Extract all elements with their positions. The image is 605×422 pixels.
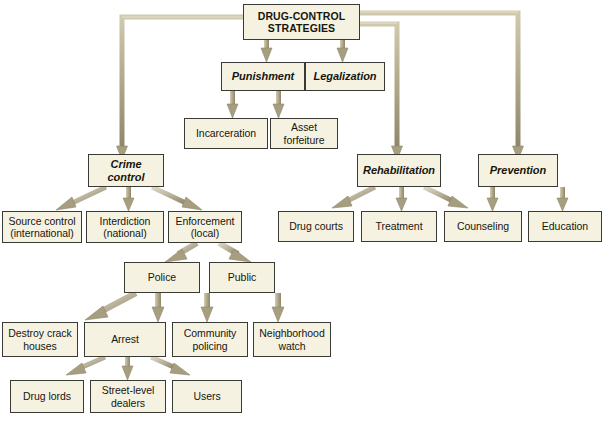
connector-police-to-arrest (152, 293, 164, 322)
node-education: Education (528, 211, 602, 242)
connector-crime-control-to-interdiction (123, 187, 134, 211)
connector-enforcement-to-public (219, 243, 251, 262)
connector-arrest-to-drug-lords (66, 357, 105, 375)
node-enforcement: Enforcement (local) (168, 211, 242, 243)
node-counseling: Counseling (444, 211, 522, 242)
connector-prevention-to-education (557, 187, 568, 211)
connector-crime-control-to-source-control (56, 187, 106, 210)
node-arrest: Arrest (84, 322, 166, 357)
connector-rehabilitation-to-drug-courts (332, 187, 375, 208)
connector-enforcement-to-police (165, 243, 197, 262)
node-drug-courts: Drug courts (278, 211, 354, 242)
connector-rehabilitation-to-treatment (396, 187, 407, 211)
node-police: Police (124, 262, 200, 293)
connector-root-to-legalization (337, 40, 348, 62)
node-drug-control-strategies: DRUG-CONTROL STRATEGIES (243, 4, 360, 40)
connector-public-to-community-policing (201, 293, 213, 322)
node-treatment: Treatment (361, 211, 437, 242)
node-community-policing: Community policing (172, 322, 248, 357)
node-crime-control: Crime control (88, 154, 164, 187)
connector-police-to-destroy-crack-houses (85, 293, 136, 320)
connector-root-to-rehabilitation (360, 23, 403, 160)
connector-public-to-neighborhood-watch (272, 293, 284, 322)
node-users: Users (172, 380, 242, 413)
node-prevention: Prevention (478, 154, 558, 187)
connector-crime-control-to-enforcement (152, 187, 202, 210)
drug-control-strategies-diagram: DRUG-CONTROL STRATEGIES Punishment Legal… (0, 0, 605, 422)
node-asset-forfeiture: Asset forfeiture (270, 118, 338, 149)
node-public: Public (209, 262, 275, 293)
node-drug-lords: Drug lords (10, 380, 84, 413)
node-source-control: Source control (international) (2, 211, 82, 243)
connector-punishment-to-incarceration (227, 91, 238, 118)
node-street-level-dealers: Street-level dealers (90, 380, 166, 413)
node-incarceration: Incarceration (184, 118, 268, 149)
node-punishment: Punishment (221, 62, 305, 91)
node-interdiction: Interdiction (national) (86, 211, 164, 243)
node-rehabilitation: Rehabilitation (357, 154, 441, 187)
node-neighborhood-watch: Neighborhood watch (253, 322, 331, 357)
connector-arrest-to-users (151, 357, 190, 375)
node-legalization: Legalization (305, 62, 385, 91)
connector-root-to-punishment (261, 40, 272, 62)
node-destroy-crack-houses: Destroy crack houses (2, 322, 78, 357)
connector-prevention-to-counseling (487, 187, 498, 211)
connector-arrest-to-street-level-dealers (122, 357, 133, 380)
connector-rehabilitation-to-counseling (424, 187, 468, 208)
connector-punishment-to-asset-forfeiture (273, 91, 284, 118)
